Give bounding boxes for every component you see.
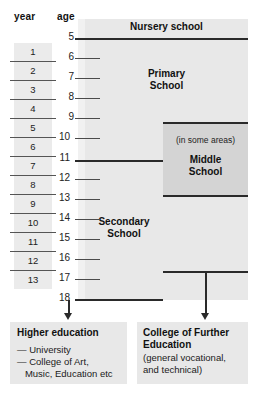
rule-middle-bottom [163,195,248,197]
age-label: 9 [56,111,74,122]
list-item: — University [17,344,125,356]
age-label: 13 [52,192,70,203]
college-title-line1: College of Further [143,327,229,338]
year-cell: 4 [14,100,52,118]
year-cell: 8 [14,176,52,194]
college-note: (general vocational, and technical) [143,352,245,376]
secondary-school-label-line2: School [107,228,140,239]
age-tick [75,259,100,260]
college-arrow-icon [201,313,209,320]
year-column-header: year [14,11,35,22]
middle-school-note: (in some areas) [163,135,248,145]
age-tick [75,199,100,200]
year-cell: 3 [14,81,52,99]
age-tick [75,98,100,99]
age-tick [75,138,100,139]
age-label: 5 [56,31,74,42]
age-label: 7 [56,71,74,82]
age-column-header: age [57,11,75,22]
year-cell: 9 [14,195,52,213]
age-tick [75,118,100,119]
primary-school-label: Primary School [85,68,248,92]
college-note-line2: and technical) [143,364,245,376]
education-system-diagram: year age Nursery school Primary School S… [0,0,258,395]
rule-middle-top [163,122,248,124]
primary-school-label-line2: School [150,80,183,91]
age-label: 10 [52,131,70,142]
age-tick [75,179,100,180]
higher-education-connector [68,300,70,314]
year-cell: 12 [14,252,52,270]
year-cell: 1 [14,43,52,61]
age-label: 16 [52,252,70,263]
list-item: Music, Education etc [17,368,125,380]
age-tick [75,279,100,280]
age-label: 8 [56,91,74,102]
rule-age-18 [75,299,163,301]
age-tick [75,78,100,79]
age-label: 12 [52,172,70,183]
year-cell: 11 [14,233,52,251]
college-connector [205,272,207,314]
higher-education-title: Higher education [17,327,123,339]
higher-education-list: — University — College of Art, Music, Ed… [17,344,125,380]
middle-school-label-line2: School [189,166,222,177]
higher-education-arrow-icon [64,313,72,320]
primary-school-label-line1: Primary [148,68,185,79]
age-tick [75,58,100,59]
rule-age-11 [75,160,163,162]
middle-school-label: Middle School [163,154,248,178]
middle-school-label-line1: Middle [190,154,222,165]
year-cell: 2 [14,62,52,80]
age-label: 17 [52,272,70,283]
rule-age-5 [75,38,248,40]
age-label: 6 [56,51,74,62]
age-tick [75,219,100,220]
age-tick [75,239,100,240]
age-label: 14 [52,212,70,223]
year-cell: 6 [14,138,52,156]
college-title-line2: Education [143,339,191,350]
college-title: College of Further Education [143,327,243,351]
list-item: — College of Art, [17,356,125,368]
secondary-school-label-line1: Secondary [98,216,149,227]
year-cell: 10 [14,214,52,232]
age-label: 11 [52,152,70,163]
year-cell: 5 [14,119,52,137]
age-label: 15 [52,232,70,243]
year-cell: 13 [14,271,52,289]
year-cell: 7 [14,157,52,175]
nursery-school-label: Nursery school [85,21,248,33]
college-note-line1: (general vocational, [143,352,245,364]
